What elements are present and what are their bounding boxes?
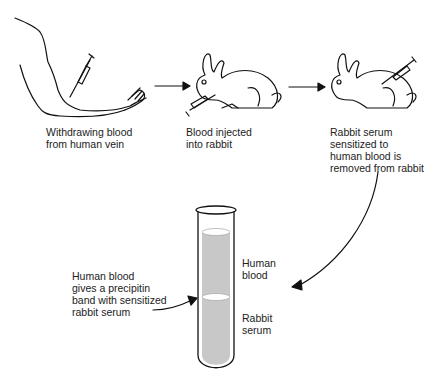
rabbit-icon <box>197 54 281 108</box>
tube-label-human-blood: Human blood <box>242 257 276 281</box>
arrow-icon <box>289 83 325 91</box>
test-tube <box>196 206 236 368</box>
diagram-artwork <box>0 0 439 379</box>
arm-icon <box>15 18 146 117</box>
step-label-remove: Rabbit serum sensitized to human blood i… <box>330 126 424 174</box>
syringe-icon <box>186 95 215 116</box>
step-label-inject: Blood injected into rabbit <box>186 126 252 150</box>
arrow-icon <box>155 82 190 90</box>
syringe-icon <box>70 54 94 97</box>
step-label-withdraw: Withdrawing blood from human vein <box>46 126 132 150</box>
rabbit-icon <box>332 54 416 108</box>
arrow-icon <box>292 172 378 290</box>
tube-label-rabbit-serum: Rabbit serum <box>242 312 272 336</box>
band-annotation: Human blood gives a precipitin band with… <box>72 270 167 318</box>
